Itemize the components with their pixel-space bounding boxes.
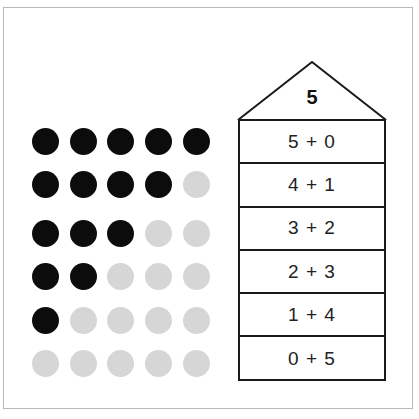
house-number: 5 xyxy=(238,86,386,109)
decomposition-row: 1 + 4 xyxy=(240,294,384,337)
decomposition-row: 5 + 0 xyxy=(240,121,384,164)
decomposition-row: 4 + 1 xyxy=(240,164,384,207)
decomposition-row: 0 + 5 xyxy=(240,338,384,381)
number-house: 5 + 0 4 + 1 3 + 2 2 + 3 1 + 4 0 + 5 xyxy=(238,119,386,381)
decomposition-row: 2 + 3 xyxy=(240,251,384,294)
decomposition-row: 3 + 2 xyxy=(240,208,384,251)
